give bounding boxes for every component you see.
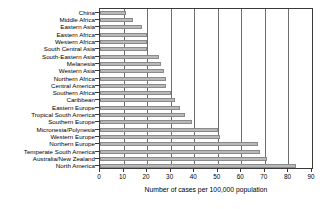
- bar-row: [100, 9, 312, 16]
- y-axis-label-21: North America: [56, 162, 95, 169]
- y-tick-3: [95, 34, 99, 35]
- bar: [100, 128, 218, 132]
- bar-row: [100, 46, 312, 53]
- y-axis-label-17: Western Europe: [50, 133, 95, 140]
- x-tick-60: [240, 169, 241, 172]
- bar-chart: ChinaMiddle AfricaEastern AsiaEastern Af…: [0, 0, 324, 209]
- y-axis-label-3: Eastern Africa: [56, 30, 95, 37]
- y-tick-0: [95, 12, 99, 13]
- bar-row: [100, 155, 312, 162]
- bar: [100, 62, 161, 66]
- y-tick-2: [95, 26, 99, 27]
- bar: [100, 157, 267, 161]
- x-tick-label-30: 30: [166, 173, 173, 181]
- bar: [100, 77, 166, 81]
- bar: [100, 113, 185, 117]
- bar: [100, 142, 258, 146]
- y-tick-13: [95, 107, 99, 108]
- bar-row: [100, 82, 312, 89]
- y-tick-11: [95, 92, 99, 93]
- y-tick-1: [95, 19, 99, 20]
- bar-row: [100, 31, 312, 38]
- bar-row: [100, 60, 312, 67]
- x-tick-50: [217, 169, 218, 172]
- x-tick-label-0: 0: [97, 173, 101, 181]
- y-axis-labels: ChinaMiddle AfricaEastern AsiaEastern Af…: [0, 8, 97, 169]
- x-tick-label-40: 40: [190, 173, 197, 181]
- x-tick-90: [311, 169, 312, 172]
- y-axis-label-12: Caribbean: [66, 96, 95, 103]
- bar-row: [100, 68, 312, 75]
- bar: [100, 18, 133, 22]
- y-axis-label-11: Southern Africa: [53, 89, 95, 96]
- bar: [100, 150, 260, 154]
- y-axis-label-7: Melanesia: [67, 59, 95, 66]
- y-axis-label-8: Western Asia: [59, 67, 95, 74]
- y-tick-16: [95, 129, 99, 130]
- x-tick-label-50: 50: [213, 173, 220, 181]
- bar: [100, 98, 175, 102]
- bar: [100, 11, 126, 15]
- bar-row: [100, 119, 312, 126]
- y-tick-10: [95, 85, 99, 86]
- bar: [100, 106, 180, 110]
- bar-row: [100, 104, 312, 111]
- y-axis-label-1: Middle Africa: [60, 15, 95, 22]
- x-tick-label-60: 60: [237, 173, 244, 181]
- bar-row: [100, 148, 312, 155]
- y-tick-6: [95, 56, 99, 57]
- y-axis-label-13: Eastern Europe: [52, 103, 95, 110]
- bar: [100, 120, 192, 124]
- bar: [100, 164, 296, 168]
- y-tick-8: [95, 70, 99, 71]
- bar-row: [100, 126, 312, 133]
- y-axis-label-2: Eastern Asia: [60, 23, 95, 30]
- x-tick-label-70: 70: [260, 173, 267, 181]
- bar: [100, 25, 142, 29]
- bar: [100, 55, 159, 59]
- y-axis-label-16: Micronesia/Polynesia: [37, 125, 95, 132]
- x-tick-40: [193, 169, 194, 172]
- bar: [100, 40, 147, 44]
- x-tick-0: [99, 169, 100, 172]
- x-tick-80: [287, 169, 288, 172]
- bar-row: [100, 141, 312, 148]
- y-tick-15: [95, 121, 99, 122]
- plot-area: [99, 8, 313, 169]
- y-axis-label-6: South-Eastern Asia: [42, 52, 95, 59]
- x-tick-20: [146, 169, 147, 172]
- x-axis-title: Number of cases per 100,000 population: [99, 185, 313, 194]
- bar-row: [100, 90, 312, 97]
- y-axis-label-4: Western Africa: [55, 37, 95, 44]
- bar: [100, 47, 147, 51]
- y-tick-20: [95, 158, 99, 159]
- x-tick-label-10: 10: [119, 173, 126, 181]
- y-tick-4: [95, 41, 99, 42]
- y-tick-17: [95, 136, 99, 137]
- y-axis-label-14: Tropical South America: [31, 111, 95, 118]
- x-tick-label-90: 90: [307, 173, 314, 181]
- y-tick-14: [95, 114, 99, 115]
- bar-row: [100, 133, 312, 140]
- y-tick-12: [95, 99, 99, 100]
- bar-row: [100, 16, 312, 23]
- bar: [100, 33, 147, 37]
- y-tick-19: [95, 151, 99, 152]
- y-tick-5: [95, 48, 99, 49]
- bar-row: [100, 53, 312, 60]
- bars-layer: [100, 9, 312, 168]
- bar: [100, 91, 171, 95]
- y-axis-label-9: Northern Africa: [54, 74, 95, 81]
- x-tick-70: [264, 169, 265, 172]
- y-axis-label-10: Central America: [51, 81, 95, 88]
- x-tick-30: [170, 169, 171, 172]
- y-axis-label-19: Temperate South America: [24, 147, 95, 154]
- y-axis-label-18: Northern Europe: [49, 140, 95, 147]
- y-tick-18: [95, 143, 99, 144]
- y-axis-label-15: Southern Europe: [48, 118, 95, 125]
- bar: [100, 69, 164, 73]
- bar-row: [100, 163, 312, 169]
- x-tick-label-20: 20: [143, 173, 150, 181]
- bar: [100, 84, 166, 88]
- x-tick-10: [123, 169, 124, 172]
